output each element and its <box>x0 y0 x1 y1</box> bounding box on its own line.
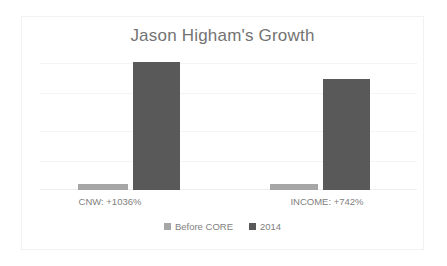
plot-area <box>40 62 417 190</box>
bar-before-core-income <box>270 184 318 190</box>
chart-title: Jason Higham's Growth <box>21 26 424 46</box>
legend-swatch-2014 <box>249 223 256 230</box>
chart-container: Jason Higham's Growth CNW: +1036% INCOME… <box>0 0 447 266</box>
category-label-income: INCOME: +742% <box>262 196 392 207</box>
chart-legend: Before CORE 2014 <box>21 221 424 232</box>
legend-swatch-before-core <box>164 223 171 230</box>
bar-before-core-cnw <box>78 184 128 190</box>
legend-label-2014: 2014 <box>260 221 281 232</box>
category-label-cnw: CNW: +1036% <box>40 196 180 207</box>
bar-2014-income <box>323 79 370 190</box>
legend-item-before-core[interactable]: Before CORE <box>164 221 233 232</box>
legend-label-before-core: Before CORE <box>175 221 233 232</box>
bar-2014-cnw <box>133 62 180 190</box>
legend-item-2014[interactable]: 2014 <box>249 221 281 232</box>
gridline <box>40 63 417 64</box>
